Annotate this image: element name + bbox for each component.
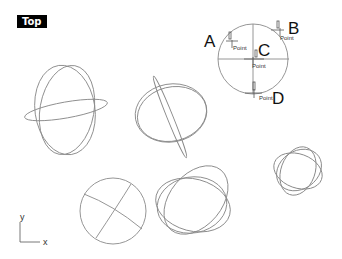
curve[interactable] xyxy=(80,178,146,244)
point-label-c: Point xyxy=(252,63,266,69)
axis-x-label: x xyxy=(43,237,48,247)
curve[interactable] xyxy=(96,184,131,238)
curve[interactable] xyxy=(273,142,322,201)
curve[interactable] xyxy=(23,95,109,125)
sphere-1[interactable] xyxy=(80,178,146,244)
axis-indicator: y x xyxy=(20,212,48,247)
curve[interactable] xyxy=(269,146,328,195)
point-marker-a[interactable]: Point xyxy=(226,32,247,51)
circle-group-3[interactable] xyxy=(150,153,241,246)
curve[interactable] xyxy=(131,78,212,148)
circle-group-2[interactable] xyxy=(131,75,213,159)
callout-d: D xyxy=(272,89,284,108)
circle-group-4[interactable] xyxy=(268,141,329,201)
curve[interactable] xyxy=(151,75,190,159)
callout-a: A xyxy=(204,32,216,51)
axis-y-label: y xyxy=(20,212,25,222)
curve[interactable] xyxy=(268,141,329,200)
point-label-d: Point xyxy=(259,95,273,101)
viewport-canvas[interactable]: Point A Point B Point C Point D xyxy=(0,0,342,259)
circle-group-1[interactable] xyxy=(23,61,109,159)
point-label-a: Point xyxy=(233,45,247,51)
point-marker-d[interactable]: Point xyxy=(245,82,273,101)
callout-b: B xyxy=(288,19,299,38)
callout-c: C xyxy=(258,41,270,60)
